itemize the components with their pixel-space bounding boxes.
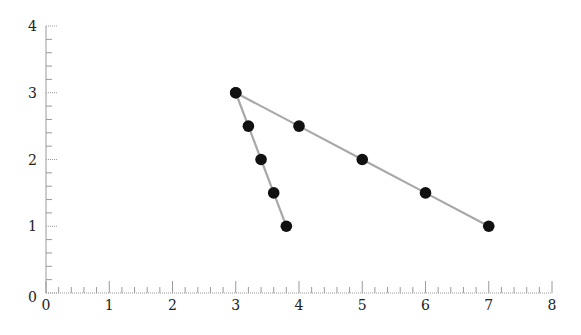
- series-layer: [230, 87, 495, 232]
- data-point: [268, 187, 280, 199]
- markers-steep: [230, 87, 292, 232]
- x-tick-label: 3: [231, 297, 240, 313]
- x-tick-label: 8: [548, 297, 557, 313]
- data-point: [293, 120, 305, 132]
- data-point: [281, 220, 293, 232]
- y-tick-label: 2: [28, 152, 37, 168]
- x-tick-label: 4: [295, 297, 304, 313]
- x-tick-label: 1: [105, 297, 114, 313]
- x-tick-label: 0: [42, 297, 51, 313]
- data-point: [420, 187, 432, 199]
- x-tick-label: 2: [168, 297, 177, 313]
- markers-shallow: [230, 87, 495, 232]
- y-tick-label: 3: [28, 85, 37, 101]
- x-tick-label: 6: [421, 297, 430, 313]
- axes: 01234567801234: [28, 18, 556, 313]
- y-tick-label: 1: [28, 218, 37, 234]
- x-tick-label: 7: [484, 297, 493, 313]
- y-tick-label: 4: [28, 18, 37, 34]
- y-tick-label: 0: [28, 289, 37, 305]
- line-chart: 01234567801234: [0, 0, 581, 335]
- data-point: [230, 87, 242, 99]
- data-point: [243, 120, 255, 132]
- data-point: [483, 220, 495, 232]
- x-tick-label: 5: [358, 297, 367, 313]
- data-point: [356, 154, 368, 166]
- data-point: [255, 154, 267, 166]
- chart-canvas: 01234567801234: [0, 0, 581, 335]
